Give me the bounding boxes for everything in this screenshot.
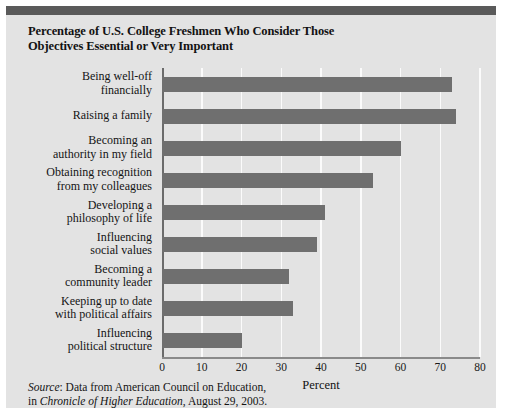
- category-label-line: community leader: [12, 276, 152, 290]
- category-label: Becoming anauthority in my field: [12, 134, 152, 161]
- category-label: Raising a family: [12, 109, 152, 123]
- category-label: Developing aphilosophy of life: [12, 199, 152, 226]
- category-label-line: Influencing: [12, 231, 152, 245]
- category-label: Influencingpolitical structure: [12, 327, 152, 354]
- chart-panel: Percentage of U.S. College Freshmen Who …: [6, 6, 496, 408]
- source-label: Source: [28, 381, 60, 393]
- category-label: Becoming acommunity leader: [12, 263, 152, 290]
- category-label: Influencingsocial values: [12, 231, 152, 258]
- category-label-line: philosophy of life: [12, 212, 152, 226]
- x-tick-label-20: 20: [222, 361, 262, 373]
- bar: [162, 77, 452, 92]
- chart-figure: Percentage of U.S. College Freshmen Who …: [0, 0, 506, 417]
- category-label-line: from my colleagues: [12, 180, 152, 194]
- x-tick-label-50: 50: [341, 361, 381, 373]
- source-text-2b: , August 29, 2003.: [183, 395, 267, 407]
- category-label: Being well-offfinancially: [12, 70, 152, 97]
- category-label-line: with political affairs: [12, 308, 152, 322]
- bar: [162, 301, 293, 316]
- title-line-2: Objectives Essential or Very Important: [28, 39, 468, 54]
- category-label-line: Becoming a: [12, 263, 152, 277]
- plot-area: Being well-offfinanciallyRaising a famil…: [156, 68, 480, 358]
- bar: [162, 237, 317, 252]
- source-text-2a: in: [28, 395, 40, 407]
- source-text-1: : Data from American Council on Educatio…: [60, 381, 267, 393]
- bar: [162, 141, 401, 156]
- category-label: Keeping up to datewith political affairs: [12, 295, 152, 322]
- x-tick-label-10: 10: [182, 361, 222, 373]
- title-line-1: Percentage of U.S. College Freshmen Who …: [28, 24, 468, 39]
- bar: [162, 205, 325, 220]
- category-label-line: Developing a: [12, 199, 152, 213]
- category-label-line: Being well-off: [12, 70, 152, 84]
- x-tick-label-60: 60: [381, 361, 421, 373]
- bar: [162, 109, 456, 124]
- category-label-line: Becoming an: [12, 134, 152, 148]
- category-label-line: Influencing: [12, 327, 152, 341]
- header-rule: [6, 6, 496, 15]
- category-label-line: Keeping up to date: [12, 295, 152, 309]
- category-label-line: Raising a family: [12, 109, 152, 123]
- source-note: Source: Data from American Council on Ed…: [28, 381, 478, 408]
- source-publication: Chronicle of Higher Education: [40, 395, 183, 407]
- category-label: Obtaining recognitionfrom my colleagues: [12, 166, 152, 193]
- x-tick-label-70: 70: [420, 361, 460, 373]
- x-axis-line: [162, 357, 480, 359]
- x-tick-label-30: 30: [261, 361, 301, 373]
- x-tick-label-40: 40: [301, 361, 341, 373]
- x-tick-label-0: 0: [142, 361, 182, 373]
- category-label-line: authority in my field: [12, 148, 152, 162]
- bar: [162, 173, 373, 188]
- page-title: Percentage of U.S. College Freshmen Who …: [28, 24, 468, 54]
- category-label-line: political structure: [12, 340, 152, 354]
- category-label-line: social values: [12, 244, 152, 258]
- bar: [162, 333, 242, 348]
- x-tick-label-80: 80: [460, 361, 500, 373]
- category-label-line: Obtaining recognition: [12, 166, 152, 180]
- gridline-80: [479, 68, 481, 357]
- source-line-2: in Chronicle of Higher Education, August…: [28, 395, 478, 409]
- category-label-line: financially: [12, 84, 152, 98]
- source-line-1: Source: Data from American Council on Ed…: [28, 381, 478, 395]
- bar: [162, 269, 289, 284]
